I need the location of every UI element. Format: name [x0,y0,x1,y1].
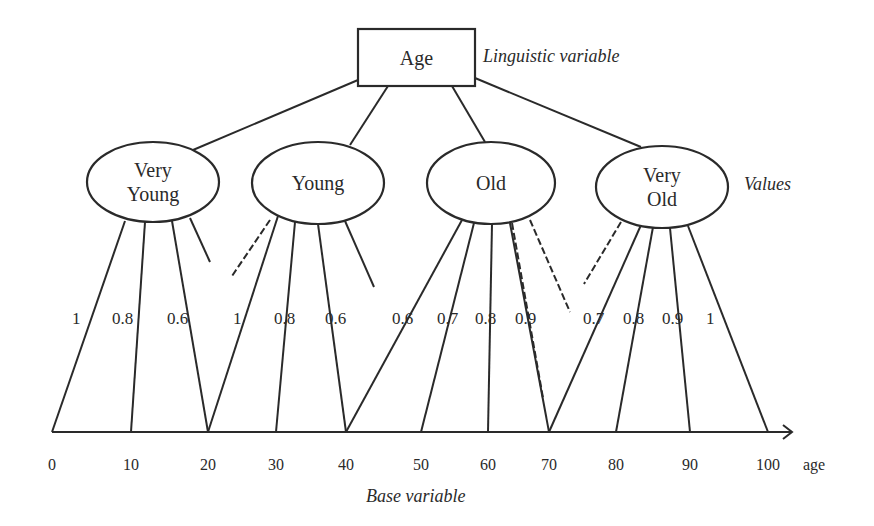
edges: 10.80.610.80.60.60.70.80.90.70.80.91 [52,78,768,432]
membership-grade-label: 1 [233,309,242,328]
membership-grade-label: 0.9 [515,309,536,328]
membership-edge-very-old-100 [688,226,768,432]
base-axis: 0102030405060708090100 [48,425,792,473]
membership-grade-label: 0.9 [662,309,683,328]
edge-root-to-very-old [475,78,641,147]
membership-grade-label: 0.8 [475,309,496,328]
partial-edge-old [530,220,570,312]
values-annotation: Values [744,174,791,194]
value-label: Very [134,159,172,182]
value-node-very-young: VeryYoung [87,142,219,222]
axis-tick-label: 0 [48,456,56,473]
axis-tick-label: 100 [756,456,780,473]
value-ellipse [87,142,219,222]
value-label: Old [476,172,506,194]
membership-grade-label: 0.7 [437,309,459,328]
partial-edge-very-young [190,218,210,262]
membership-edge-very-old-90 [670,228,690,432]
membership-grade-label: 0.6 [325,309,346,328]
nodes: AgeVeryYoungYoungOldVeryOld [87,29,728,228]
edge-root-to-young [350,86,388,145]
membership-grade-label: 0.7 [583,309,605,328]
value-label: Old [647,188,677,210]
membership-edge-young-40 [318,224,346,432]
axis-tick-label: 90 [682,456,698,473]
value-ellipse [596,146,728,228]
membership-grade-label: 0.8 [274,309,295,328]
value-label: Young [292,172,344,195]
axis-tick-label: 70 [541,456,557,473]
edge-root-to-old [452,86,485,142]
axis-tick-label: 80 [608,456,624,473]
base-variable-annotation: Base variable [366,486,465,506]
root-node-label: Age [400,47,433,70]
root-annotation: Linguistic variable [482,46,620,66]
axis-unit-label: age [803,456,825,474]
membership-edge-very-old-70 [549,225,641,432]
partial-edge-young [345,221,374,287]
axis-tick-label: 40 [338,456,354,473]
edge-root-to-very-young [193,80,358,150]
membership-grade-label: 1 [706,309,715,328]
axis-tick-label: 20 [200,456,216,473]
membership-edge-young-20 [208,216,278,432]
membership-grade-label: 0.6 [167,309,188,328]
axis-tick-label: 60 [480,456,496,473]
value-node-old: Old [427,142,555,224]
membership-edge-old-60 [488,224,492,432]
value-node-very-old: VeryOld [596,146,728,228]
partial-edge-young [232,220,270,276]
membership-edge-very-old-80 [616,227,653,432]
membership-grade-label: 1 [72,309,81,328]
membership-grade-label: 0.6 [392,309,413,328]
value-label: Young [127,183,179,206]
membership-grade-label: 0.8 [112,309,133,328]
labels: Linguistic variable Values Base variable… [366,46,825,506]
partial-edge-very-old [584,222,621,284]
value-node-young: Young [252,142,384,224]
value-label: Very [643,164,681,187]
axis-tick-label: 30 [268,456,284,473]
membership-grade-label: 0.8 [623,309,644,328]
axis-tick-label: 50 [413,456,429,473]
linguistic-variable-diagram: 10.80.610.80.60.60.70.80.90.70.80.91 010… [0,0,874,526]
axis-tick-label: 10 [123,456,139,473]
